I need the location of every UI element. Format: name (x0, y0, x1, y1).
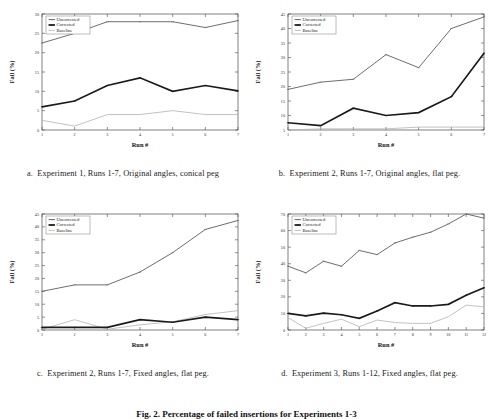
y-axis-title: Fail (%) (8, 61, 16, 84)
panel-c-caption: c. Experiment 2, Runs 1-7, Fixed angles,… (0, 360, 246, 379)
y-tick-label: 35 (281, 41, 285, 46)
legend-label-uncorrected: Uncorrected (57, 217, 80, 222)
y-tick-label: 5 (37, 315, 39, 320)
y-tick-label: 20 (281, 294, 285, 299)
y-tick-label: 45 (281, 12, 285, 17)
y-tick-label: 0 (37, 328, 39, 333)
x-tick-label: 9 (429, 332, 431, 337)
x-tick-label: 3 (352, 132, 354, 137)
panel-b-letter: b. (279, 169, 285, 178)
panel-d-caption: d. Experiment 3, Runs 1-12, Fixed angles… (246, 360, 493, 379)
y-tick-label: 30 (35, 12, 39, 17)
x-tick-label: 1 (41, 332, 43, 337)
y-tick-label: 5 (283, 128, 285, 133)
y-tick-label: 45 (35, 212, 39, 217)
x-tick-label: 7 (394, 332, 396, 337)
x-tick-label: 5 (418, 132, 420, 137)
legend-label-uncorrected: Uncorrected (303, 217, 326, 222)
y-tick-label: 60 (281, 228, 285, 233)
legend-label-uncorrected: Uncorrected (303, 17, 326, 22)
series-corrected (288, 288, 484, 319)
chart-a-plot: 0510152025301234567Run #Fail (%)Uncorrec… (8, 12, 239, 148)
x-tick-label: 2 (74, 132, 76, 137)
y-tick-label: 20 (35, 276, 39, 281)
x-tick-label: 3 (106, 332, 108, 337)
panel-b-chart: 510152025303540451234567Run #Fail (%)Unc… (246, 0, 492, 160)
chart-b-svg: 510152025303540451234567Run #Fail (%)Unc… (246, 0, 493, 160)
panel-a-chart: 0510152025301234567Run #Fail (%)Uncorrec… (0, 0, 246, 160)
y-tick-label: 15 (35, 289, 39, 294)
x-tick-label: 5 (172, 332, 174, 337)
chart-a-svg: 0510152025301234567Run #Fail (%)Uncorrec… (0, 0, 246, 160)
y-tick-label: 10 (281, 113, 285, 118)
panel-b-caption-text: Experiment 2, Runs 1-7, Original angles,… (290, 169, 461, 178)
x-tick-label: 5 (358, 332, 360, 337)
panel-c-chart: 0510152025303540451234567Run #Fail (%)Un… (0, 200, 246, 360)
legend-label-uncorrected: Uncorrected (57, 17, 80, 22)
x-tick-label: 5 (172, 132, 174, 137)
panel-d-letter: d. (281, 369, 287, 378)
y-tick-label: 30 (281, 278, 285, 283)
chart-d-plot: 010203040506070123456789101112Run #Fail … (254, 212, 486, 348)
panel-d: 010203040506070123456789101112Run #Fail … (246, 200, 493, 400)
panel-a: 0510152025301234567Run #Fail (%)Uncorrec… (0, 0, 246, 200)
y-tick-label: 5 (37, 108, 39, 113)
y-tick-label: 30 (281, 55, 285, 60)
series-baseline (288, 305, 484, 328)
y-tick-label: 30 (35, 250, 39, 255)
legend-label-corrected: Corrected (57, 22, 76, 27)
x-tick-label: 1 (287, 332, 289, 337)
y-tick-label: 50 (281, 245, 285, 250)
chart-b-plot: 510152025303540451234567Run #Fail (%)Unc… (254, 12, 485, 148)
y-tick-label: 20 (281, 84, 285, 89)
y-tick-label: 10 (35, 89, 39, 94)
y-tick-label: 25 (35, 31, 39, 36)
panel-d-caption-text: Experiment 3, Runs 1-12, Fixed angles, f… (292, 369, 458, 378)
x-tick-label: 6 (376, 332, 378, 337)
y-tick-label: 10 (35, 302, 39, 307)
panel-c: 0510152025303540451234567Run #Fail (%)Un… (0, 200, 246, 400)
x-tick-label: 7 (237, 132, 239, 137)
y-axis-title: Fail (%) (254, 61, 262, 84)
panel-c-caption-text: Experiment 2, Runs 1-7, Fixed angles, fl… (47, 369, 209, 378)
x-tick-label: 7 (237, 332, 239, 337)
panel-d-chart: 010203040506070123456789101112Run #Fail … (246, 200, 492, 360)
legend-label-baseline: Baseline (303, 28, 319, 33)
panel-b: 510152025303540451234567Run #Fail (%)Unc… (246, 0, 493, 200)
legend-label-baseline: Baseline (303, 228, 319, 233)
x-tick-label: 6 (204, 332, 206, 337)
y-tick-label: 0 (283, 328, 285, 333)
y-tick-label: 25 (281, 70, 285, 75)
chart-c-plot: 0510152025303540451234567Run #Fail (%)Un… (8, 212, 239, 348)
x-tick-label: 4 (139, 132, 142, 137)
panel-grid: 0510152025301234567Run #Fail (%)Uncorrec… (0, 0, 493, 400)
x-tick-label: 7 (483, 132, 485, 137)
x-tick-label: 2 (320, 132, 322, 137)
x-tick-label: 2 (74, 332, 76, 337)
x-tick-label: 4 (385, 132, 388, 137)
x-tick-label: 1 (41, 132, 43, 137)
x-axis-title: Run # (132, 341, 149, 348)
series-corrected (42, 78, 238, 107)
x-tick-label: 6 (450, 132, 452, 137)
x-tick-label: 10 (446, 332, 450, 337)
series-corrected (288, 53, 484, 126)
x-tick-label: 4 (340, 332, 343, 337)
chart-d-svg: 010203040506070123456789101112Run #Fail … (246, 200, 493, 360)
chart-c-svg: 0510152025303540451234567Run #Fail (%)Un… (0, 200, 246, 360)
x-tick-label: 8 (412, 332, 414, 337)
legend-label-corrected: Corrected (303, 222, 322, 227)
panel-a-caption-text: Experiment 1, Runs 1-7, Original angles,… (37, 169, 219, 178)
panel-a-letter: a. (27, 169, 33, 178)
x-tick-label: 12 (482, 332, 486, 337)
y-tick-label: 10 (281, 311, 285, 316)
x-tick-label: 3 (323, 332, 325, 337)
y-axis-title: Fail (%) (8, 261, 16, 284)
series-corrected (42, 317, 238, 327)
figure-caption: Fig. 2. Percentage of failed insertions … (0, 409, 493, 419)
y-tick-label: 70 (281, 212, 285, 217)
panel-a-caption: a. Experiment 1, Runs 1-7, Original angl… (0, 160, 246, 179)
x-tick-label: 6 (204, 132, 206, 137)
y-tick-label: 35 (35, 237, 39, 242)
